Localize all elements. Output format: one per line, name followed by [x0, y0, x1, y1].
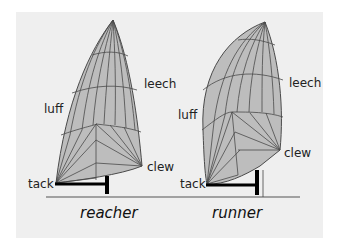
runner-label-leech: leech	[289, 77, 321, 89]
reacher-label-luff: luff	[44, 103, 63, 115]
reacher-label-leech: leech	[144, 78, 176, 90]
spinnaker-diagram	[0, 0, 337, 246]
runner-sail	[202, 22, 283, 197]
runner-label-luff: luff	[178, 109, 197, 121]
runner-caption: runner	[212, 206, 262, 221]
runner-label-clew: clew	[284, 147, 311, 159]
reacher-label-tack: tack	[28, 178, 54, 190]
reacher-label-clew: clew	[147, 161, 174, 173]
reacher-caption: reacher	[80, 206, 138, 221]
runner-mast	[255, 170, 259, 195]
reacher-sail	[55, 20, 142, 194]
reacher-mast	[105, 176, 109, 194]
runner-label-tack: tack	[180, 178, 206, 190]
